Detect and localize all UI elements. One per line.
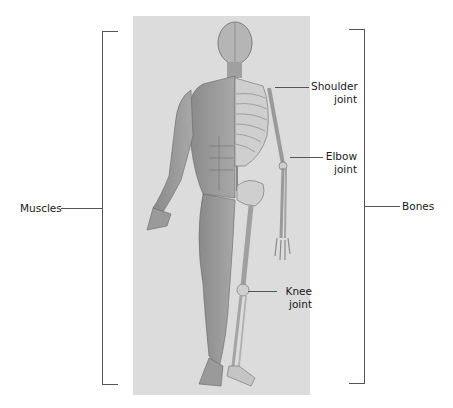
knee-joint-label: Knee joint <box>278 285 312 311</box>
elbow-leader-line <box>290 157 323 158</box>
human-figure-drawing <box>133 16 310 395</box>
knee-label-line2: joint <box>278 298 312 311</box>
shoulder-label-line2: joint <box>311 93 357 106</box>
bones-label: Bones <box>402 200 434 213</box>
knee-leader-line <box>248 291 277 292</box>
shoulder-label-line1: Shoulder <box>311 80 357 93</box>
knee-label-line1: Knee <box>278 285 312 298</box>
elbow-label-line2: joint <box>323 163 357 176</box>
anatomy-illustration <box>133 16 310 395</box>
shoulder-leader-line <box>275 87 309 88</box>
elbow-label-line1: Elbow <box>323 150 357 163</box>
muscles-label: Muscles <box>20 202 62 215</box>
elbow-joint-label: Elbow joint <box>323 150 357 176</box>
shoulder-joint-label: Shoulder joint <box>311 80 357 106</box>
